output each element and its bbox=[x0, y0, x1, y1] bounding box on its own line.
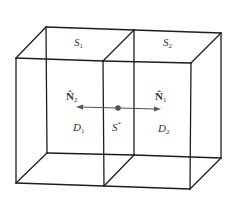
label-domain-2: D2 bbox=[157, 122, 170, 136]
arrowhead-right-icon bbox=[154, 107, 161, 112]
label-surface-2: S2 bbox=[163, 36, 173, 50]
label-interface: S* bbox=[112, 120, 122, 133]
arrowhead-left-icon bbox=[76, 105, 83, 110]
label-normal-1: N̂1 bbox=[155, 90, 167, 104]
two-domain-box-diagram: S1 S2 N̂2 N̂1 D1 S* D2 bbox=[0, 0, 234, 202]
label-domain-1: D1 bbox=[72, 121, 85, 135]
label-normal-2: N̂2 bbox=[66, 90, 78, 104]
label-surface-1: S1 bbox=[74, 36, 84, 50]
interface-point-icon bbox=[115, 105, 121, 111]
normal-vectors bbox=[76, 105, 161, 112]
